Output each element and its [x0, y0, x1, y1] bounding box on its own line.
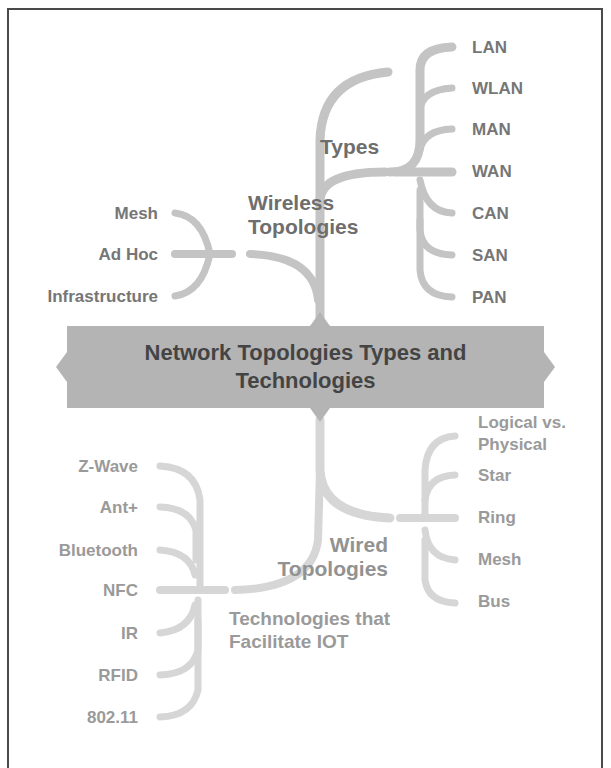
- wireless-item-ad-hoc[interactable]: Ad Hoc: [99, 244, 159, 265]
- iot-item-nfc[interactable]: NFC: [103, 580, 138, 601]
- iot-item-ir[interactable]: IR: [121, 623, 138, 644]
- types-item-wlan[interactable]: WLAN: [472, 78, 523, 99]
- branch-wireless-label[interactable]: Wireless Topologies: [248, 191, 358, 239]
- iot-item-rfid[interactable]: RFID: [98, 665, 138, 686]
- branch-wired-line2: Topologies: [278, 557, 388, 581]
- types-item-lan[interactable]: LAN: [472, 37, 507, 58]
- types-item-pan[interactable]: PAN: [472, 287, 507, 308]
- iot-item-z-wave[interactable]: Z-Wave: [78, 456, 138, 477]
- wired-item-logical-vs-physical[interactable]: Logical vs. Physical: [478, 412, 566, 456]
- iot-item-bluetooth[interactable]: Bluetooth: [59, 540, 138, 561]
- wired-item-logical-line2: Physical: [478, 434, 566, 456]
- branch-iot-line1: Technologies that: [229, 607, 390, 630]
- central-topic-title: Network Topologies Types and Technologie…: [145, 339, 467, 395]
- wired-item-bus[interactable]: Bus: [478, 591, 510, 612]
- types-item-wan[interactable]: WAN: [472, 161, 512, 182]
- wired-item-logical-line1: Logical vs.: [478, 412, 566, 434]
- types-item-san[interactable]: SAN: [472, 245, 508, 266]
- wired-item-star[interactable]: Star: [478, 465, 511, 486]
- types-item-man[interactable]: MAN: [472, 119, 511, 140]
- branch-wireless-line1: Wireless: [248, 191, 358, 215]
- branch-wired-line1: Wired: [278, 533, 388, 557]
- branch-wireless-line2: Topologies: [248, 215, 358, 239]
- wired-item-mesh[interactable]: Mesh: [478, 549, 521, 570]
- branch-types-label[interactable]: Types: [320, 134, 379, 159]
- branch-wired-label[interactable]: Wired Topologies: [278, 533, 388, 581]
- branch-iot-label[interactable]: Technologies that Facilitate IOT: [229, 607, 390, 653]
- iot-item-ant-plus[interactable]: Ant+: [100, 497, 138, 518]
- central-topic[interactable]: Network Topologies Types and Technologie…: [67, 326, 544, 408]
- branch-iot-line2: Facilitate IOT: [229, 630, 390, 653]
- iot-item-802-11[interactable]: 802.11: [87, 707, 138, 728]
- central-topic-line2: Technologies: [145, 367, 467, 395]
- central-topic-line1: Network Topologies Types and: [145, 339, 467, 367]
- wireless-item-mesh[interactable]: Mesh: [115, 203, 158, 224]
- wired-item-ring[interactable]: Ring: [478, 507, 516, 528]
- types-item-can[interactable]: CAN: [472, 203, 509, 224]
- wireless-item-infrastructure[interactable]: Infrastructure: [47, 286, 158, 307]
